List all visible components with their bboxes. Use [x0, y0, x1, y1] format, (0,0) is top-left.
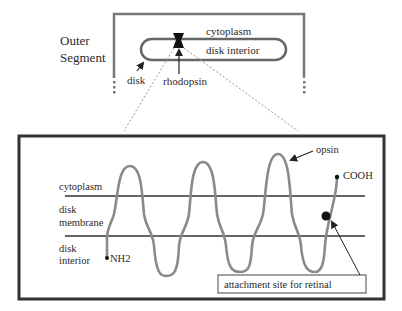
outer-segment-panel: Outer Segment cytoplasm disk interior di… [60, 14, 306, 131]
disk-arrow [137, 63, 143, 71]
retinal-attachment-site [322, 212, 331, 221]
top-disk-interior-label: disk interior [206, 44, 260, 56]
membrane-label-line2: membrane [59, 217, 104, 228]
membrane-label-line1: disk [59, 204, 77, 215]
outer-segment-title-line1: Outer [60, 33, 90, 48]
cytoplasm-label: cytoplasm [59, 181, 102, 192]
continuation-dots-left [113, 81, 116, 94]
nh2-label: NH2 [110, 253, 130, 264]
interior-label-line1: disk [59, 243, 77, 254]
retinal-callout-text: attachment site for retinal [224, 279, 332, 290]
rhodopsin-diagram: Outer Segment cytoplasm disk interior di… [0, 0, 402, 311]
rhodopsin-label: rhodopsin [163, 75, 208, 87]
opsin-label: opsin [316, 144, 340, 155]
opsin-chain [107, 154, 337, 276]
continuation-dots-right [303, 81, 306, 94]
outer-segment-title-line2: Segment [60, 50, 106, 65]
rhodopsin-icon [173, 33, 184, 48]
interior-label-line2: interior [59, 255, 90, 266]
cooh-label: COOH [343, 170, 373, 181]
opsin-detail-panel: cytoplasm disk membrane disk interior NH… [19, 136, 384, 299]
retinal-callout-arrow [332, 222, 360, 275]
cooh-terminus-dot [335, 175, 339, 179]
nh2-terminus-dot [105, 256, 109, 260]
top-cytoplasm-label: cytoplasm [206, 25, 252, 37]
disk-label: disk [127, 74, 146, 86]
opsin-arrow [291, 151, 313, 160]
